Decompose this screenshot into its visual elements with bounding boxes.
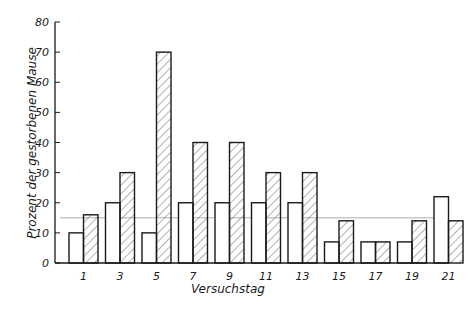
bar-hatched — [120, 173, 135, 263]
bar-hatched — [412, 221, 427, 263]
x-tick-label: 13 — [296, 270, 310, 283]
x-tick-label: 1 — [80, 270, 87, 283]
bar-hatched — [303, 173, 318, 263]
x-tick-label: 21 — [442, 270, 456, 283]
bar-open — [325, 242, 340, 263]
x-tick-label: 19 — [405, 270, 419, 283]
y-tick-label: 0 — [42, 257, 49, 270]
x-tick-label: 17 — [369, 270, 383, 283]
bar-hatched — [266, 173, 281, 263]
bar-open — [434, 197, 449, 263]
bar-hatched — [376, 242, 391, 263]
x-axis-label: Versuchstag — [191, 282, 265, 296]
bar-hatched — [230, 143, 245, 264]
x-tick-label: 5 — [153, 270, 160, 283]
bar-open — [142, 233, 157, 263]
bar-open — [252, 203, 267, 263]
bar-open — [69, 233, 84, 263]
bar-open — [361, 242, 376, 263]
bar-hatched — [449, 221, 464, 263]
bar-open — [288, 203, 303, 263]
bar-open — [106, 203, 121, 263]
bar-hatched — [339, 221, 354, 263]
bar-hatched — [193, 143, 208, 264]
bar-open — [398, 242, 413, 263]
x-tick-label: 15 — [332, 270, 346, 283]
y-tick-label: 80 — [35, 16, 49, 29]
y-axis-label: Prozent der gestorbenen Mause — [25, 47, 39, 239]
bars — [69, 52, 463, 263]
x-tick-label: 3 — [117, 270, 124, 283]
bar-hatched — [157, 52, 172, 263]
bar-hatched — [84, 215, 99, 263]
bar-open — [179, 203, 194, 263]
bar-open — [215, 203, 230, 263]
bar-chart: 0102030405060708013579111315171921 Proze… — [0, 0, 469, 309]
